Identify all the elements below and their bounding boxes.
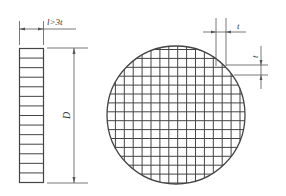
pitch-label-horizontal: t bbox=[237, 21, 240, 31]
arrow-icon bbox=[20, 28, 26, 31]
arrow-icon bbox=[260, 75, 263, 80]
pitch-label-vertical: t bbox=[250, 55, 260, 58]
diameter-label: D bbox=[61, 111, 72, 120]
arrow-icon bbox=[73, 177, 76, 183]
technical-drawing: l>3t D t t bbox=[0, 0, 286, 196]
side-view-rows bbox=[20, 58, 44, 173]
disc-grid bbox=[98, 40, 267, 196]
side-view bbox=[20, 49, 44, 183]
pitch-dimension-vertical bbox=[226, 46, 268, 89]
front-view bbox=[98, 40, 267, 196]
thickness-label: l>3t bbox=[47, 17, 63, 27]
arrow-icon bbox=[260, 60, 263, 65]
arrow-icon bbox=[38, 28, 44, 31]
arrow-icon bbox=[211, 31, 216, 34]
arrow-icon bbox=[226, 31, 231, 34]
disc-outline bbox=[107, 46, 245, 184]
arrow-icon bbox=[73, 48, 76, 54]
